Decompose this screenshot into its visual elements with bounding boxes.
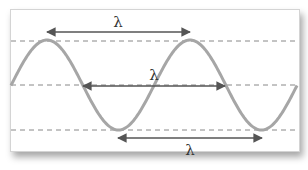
wavelength-label: λ [185,141,195,159]
trough-to-trough-measure: λ [118,138,262,159]
wavelength-label: λ [113,13,123,31]
wavelength-arrows: λλλ [47,13,262,159]
wavelength-label: λ [149,66,159,84]
crest-to-crest-measure: λ [47,13,190,32]
wavelength-diagram: λλλ [0,0,308,170]
node-to-node-measure: λ [83,66,225,86]
